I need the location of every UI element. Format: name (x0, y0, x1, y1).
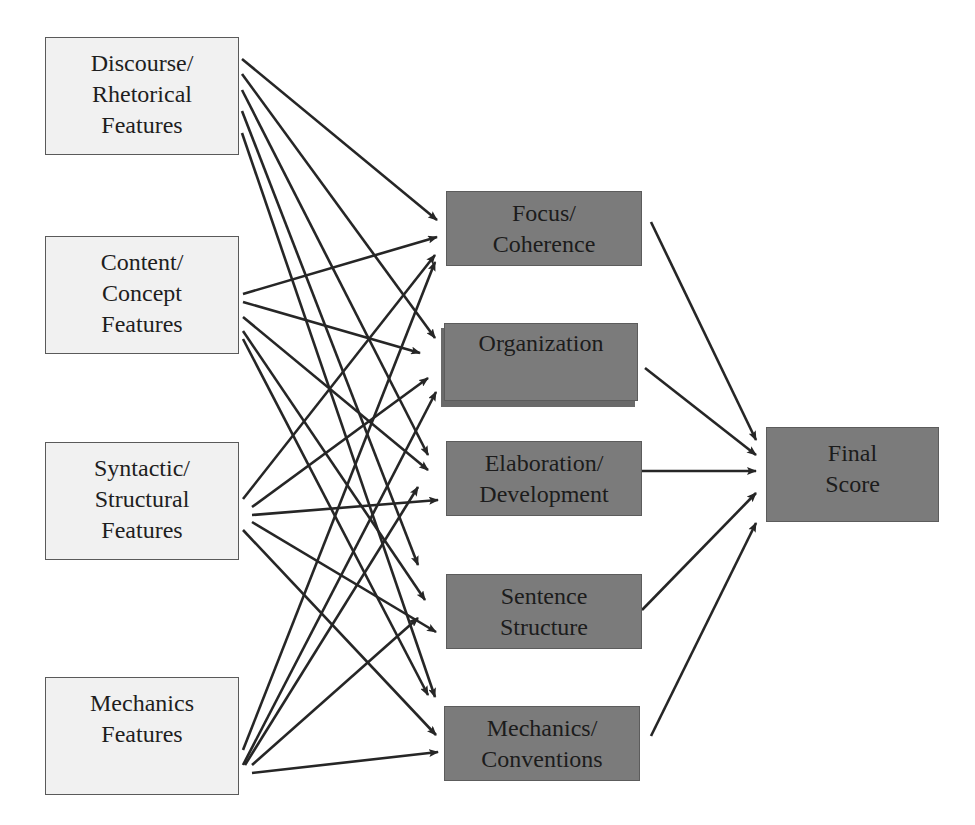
node-mechanics-features: Mechanics Features (45, 677, 239, 795)
node-mechanics-conventions: Mechanics/ Conventions (444, 706, 640, 781)
node-label: Elaboration/ Development (479, 448, 608, 510)
node-label: Discourse/ Rhetorical Features (91, 48, 194, 141)
node-sentence-structure: Sentence Structure (446, 574, 642, 649)
arrow-discourse-elaboration (242, 90, 428, 455)
node-label: Mechanics Features (90, 688, 194, 750)
arrow-discourse-focus (242, 59, 437, 220)
node-discourse-rhetorical-features: Discourse/ Rhetorical Features (45, 37, 239, 155)
arrow-organization-final (645, 368, 756, 455)
arrow-syntactic-focus (243, 255, 435, 499)
arrow-mechanics-conventions (252, 752, 438, 773)
node-label: Syntactic/ Structural Features (94, 453, 190, 546)
node-final-score: Final Score (766, 427, 939, 522)
arrow-syntactic-conventions (243, 530, 436, 735)
arrow-mechanics-sentence (252, 618, 418, 765)
arrow-content-focus (243, 237, 437, 294)
arrow-focus-final (651, 222, 756, 440)
node-label: Focus/ Coherence (493, 198, 596, 260)
node-syntactic-structural-features: Syntactic/ Structural Features (45, 442, 239, 560)
node-label: Mechanics/ Conventions (481, 713, 602, 775)
node-label: Final Score (825, 438, 880, 500)
node-label: Content/ Concept Features (101, 247, 184, 340)
node-label: Sentence Structure (500, 581, 588, 643)
node-organization: Organization (444, 323, 638, 401)
node-elaboration-development: Elaboration/ Development (446, 441, 642, 516)
node-focus-coherence: Focus/ Coherence (446, 191, 642, 266)
arrow-discourse-organization (242, 74, 435, 338)
arrow-syntactic-elaboration (252, 500, 438, 515)
arrow-sentence-final (642, 493, 756, 610)
arrow-conventions-final (651, 523, 756, 736)
node-label: Organization (479, 328, 604, 359)
arrow-mechanics-organization (243, 392, 436, 765)
node-content-concept-features: Content/ Concept Features (45, 236, 239, 354)
